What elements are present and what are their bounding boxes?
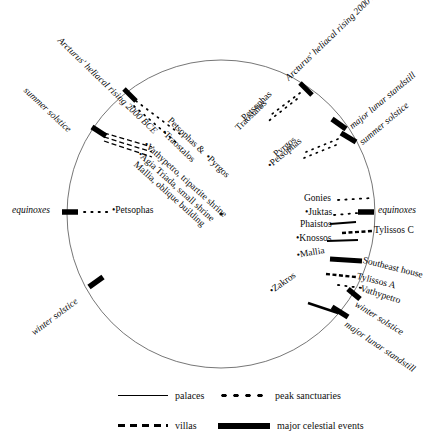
label-petsophas-left: •Petsophas — [112, 206, 153, 216]
legend: palaces peak sanctuaries villas major ce… — [0, 378, 447, 438]
ray-tylissos-c — [342, 231, 372, 233]
solid-line-icon — [118, 395, 168, 396]
label-gonies: Gonies — [304, 194, 331, 204]
label-knossos: •Knossos — [296, 234, 332, 244]
legend-item-palaces: palaces — [118, 390, 204, 401]
thick-bar-icon — [218, 423, 270, 429]
label-juktas: •Juktas — [305, 208, 332, 218]
ray-tylissos-a — [326, 274, 356, 277]
ray-juktas — [334, 213, 358, 215]
legend-label-palaces: palaces — [175, 390, 204, 401]
petsophas-left-text: Petsophas — [115, 205, 153, 215]
knossos-text: Knossos — [299, 233, 331, 243]
marker-summer-solstice-upper-left — [92, 127, 106, 136]
label-tylissos-c: Tylissos C — [374, 226, 414, 236]
dotted-line-icon — [218, 394, 268, 397]
legend-label-peak-sanctuaries: peak sanctuaries — [275, 390, 341, 401]
juktas-text: Juktas — [308, 207, 332, 217]
label-equinoxes-right: equinoxes — [378, 206, 416, 216]
orientation-circle-svg — [0, 0, 447, 438]
marker-winter-solstice-lower-right — [348, 289, 360, 299]
ray-mallia-southeast-house — [330, 259, 362, 261]
ray-traostalos-ur — [266, 99, 297, 123]
legend-label-major-celestial-events: major celestial events — [277, 420, 364, 431]
legend-item-major-celestial-events: major celestial events — [218, 420, 364, 431]
marker-winter-solstice-lower-left — [89, 277, 103, 287]
marker-summer-solstice-upper-right — [341, 133, 356, 142]
diagram-canvas: Arcturus' heliacal rising 2000 BCE summe… — [0, 0, 447, 438]
ray-gonies — [338, 198, 372, 200]
legend-label-villas: villas — [175, 420, 197, 431]
legend-item-peak-sanctuaries: peak sanctuaries — [218, 390, 341, 401]
dashed-line-icon — [118, 424, 168, 427]
legend-item-villas: villas — [118, 420, 197, 431]
label-equinoxes-left: equinoxes — [12, 206, 50, 216]
label-phaistos: Phaistos — [300, 220, 332, 230]
ray-phaistos — [330, 222, 356, 224]
